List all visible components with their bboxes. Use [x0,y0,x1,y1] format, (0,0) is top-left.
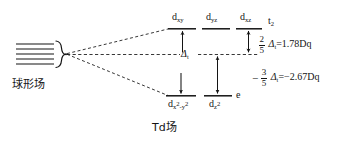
term-symbol-t2: t2 [268,16,274,27]
correlation-line-lower [67,54,168,95]
orbital-label-dxz: dxz [240,12,251,23]
orbital-label-dz2: dz2 [209,99,220,110]
brace-icon [56,41,65,68]
orbital-label-dxy: dxy [172,12,184,23]
fraction-three-fifths: 3 5 [261,68,268,88]
energy-value-e: Δt=−2.67Dq [271,72,320,83]
spherical-field-level-lines [16,44,54,64]
orbital-label-dx2-y2: dx2-y2 [168,99,188,110]
energy-value-t2: Δt=1.78Dq [269,39,312,50]
energy-expression-e: − 3 5 Δt=−2.67Dq [252,68,319,88]
orbital-label-dyz: dyz [206,12,217,23]
caption-td-field: Td场 [152,122,177,133]
correlation-line-upper [67,29,168,54]
barycenter-label-delta-t: Δt [181,49,189,60]
fraction-two-fifths: 2 5 [259,35,266,55]
crystal-field-splitting-diagram: dxy dyz dxz t2 2 5 Δt=1.78Dq Δt − 3 5 Δt… [0,0,337,141]
caption-spherical-field: 球形场 [12,79,45,90]
energy-expression-t2: 2 5 Δt=1.78Dq [256,35,312,55]
term-symbol-e: e [236,90,240,100]
fan-origin-point [65,53,67,55]
correlation-lines [67,29,168,96]
